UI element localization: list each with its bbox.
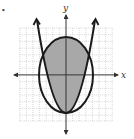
- graph: •: [0, 0, 134, 139]
- item-marker: •: [1, 6, 6, 15]
- x-axis-label: x: [121, 70, 126, 80]
- y-axis-label: y: [62, 3, 69, 13]
